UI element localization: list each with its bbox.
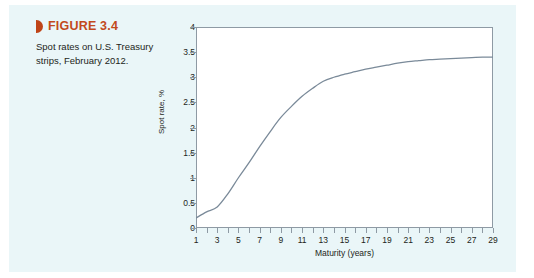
- x-axis-tick-label: 15: [340, 235, 349, 245]
- page-margin-bottom: [0, 272, 534, 278]
- spot-rate-chart: Spot rate, % 00.511.522.533.54 135791113…: [163, 16, 508, 266]
- x-axis-tick-mark: [270, 228, 271, 233]
- x-axis-tick-mark: [408, 228, 409, 233]
- x-axis-tick-mark: [228, 228, 229, 233]
- x-axis-tick-label: 9: [278, 235, 283, 245]
- x-axis-tick-mark: [281, 228, 282, 233]
- x-axis-tick-label: 21: [403, 235, 412, 245]
- figure-caption: FIGURE 3.4 Spot rates on U.S. Treasury s…: [36, 19, 161, 68]
- page-margin-top: [0, 0, 534, 5]
- x-axis-tick-mark: [196, 228, 197, 233]
- x-axis-tick-mark: [323, 228, 324, 233]
- x-axis-tick-label: 23: [425, 235, 434, 245]
- spot-rate-curve: [196, 27, 493, 228]
- x-axis-tick-mark: [376, 228, 377, 233]
- figure-heading: FIGURE 3.4: [36, 19, 161, 33]
- x-axis-tick-mark: [355, 228, 356, 233]
- y-axis-tick-labels: 00.511.522.533.54: [168, 16, 195, 228]
- x-axis-tick-label: 5: [236, 235, 241, 245]
- figure-panel: FIGURE 3.4 Spot rates on U.S. Treasury s…: [0, 0, 534, 278]
- x-axis-tick-mark: [302, 228, 303, 233]
- x-axis-tick-mark: [207, 228, 208, 233]
- x-axis-tick-label: 3: [215, 235, 220, 245]
- x-axis-tick-mark: [429, 228, 430, 233]
- x-axis-tick-mark: [238, 228, 239, 233]
- page-margin-left: [0, 0, 9, 278]
- x-axis-tick-label: 19: [382, 235, 391, 245]
- x-axis-tick-mark: [493, 228, 494, 233]
- x-axis-tick-mark: [387, 228, 388, 233]
- figure-description: Spot rates on U.S. Treasury strips, Febr…: [36, 40, 161, 68]
- x-axis-tick-mark: [440, 228, 441, 233]
- page-margin-right: [516, 0, 534, 278]
- x-axis-tick-mark: [451, 228, 452, 233]
- spot-rate-line: [196, 57, 493, 218]
- x-axis-tick-mark: [482, 228, 483, 233]
- y-axis-label: Spot rate, %: [157, 90, 166, 134]
- x-axis-label: Maturity (years): [196, 248, 493, 258]
- x-axis-tick-mark: [419, 228, 420, 233]
- x-axis-tick-mark: [313, 228, 314, 233]
- x-axis-tick-label: 25: [446, 235, 455, 245]
- x-axis-tick-mark: [334, 228, 335, 233]
- x-axis-tick-label: 17: [361, 235, 370, 245]
- x-axis-tick-mark: [461, 228, 462, 233]
- x-axis-tick-label: 27: [467, 235, 476, 245]
- x-axis-tick-mark: [345, 228, 346, 233]
- x-axis-tick-mark: [217, 228, 218, 233]
- x-axis-tick-label: 1: [194, 235, 199, 245]
- x-axis-tick-mark: [260, 228, 261, 233]
- x-axis-tick-mark: [398, 228, 399, 233]
- triangle-right-icon: [36, 20, 43, 33]
- figure-label: FIGURE 3.4: [48, 19, 118, 33]
- x-axis-tick-mark: [291, 228, 292, 233]
- x-axis-tick-mark: [249, 228, 250, 233]
- x-axis-tick-label: 7: [257, 235, 262, 245]
- x-axis-tick-label: 11: [298, 235, 307, 245]
- x-axis-tick-label: 13: [319, 235, 328, 245]
- x-axis-tick-mark: [472, 228, 473, 233]
- x-axis-tick-label: 29: [488, 235, 497, 245]
- x-axis-tick-mark: [366, 228, 367, 233]
